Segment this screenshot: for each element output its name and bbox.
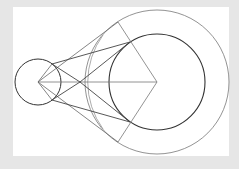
radius-top [118,22,157,82]
tangent-outer-top [38,22,118,82]
cross-line-2 [52,82,80,100]
geometry-diagram [0,0,239,169]
cross-line-1 [52,64,80,82]
tangent-outer-bottom [38,82,118,142]
radius-bottom [118,82,157,142]
